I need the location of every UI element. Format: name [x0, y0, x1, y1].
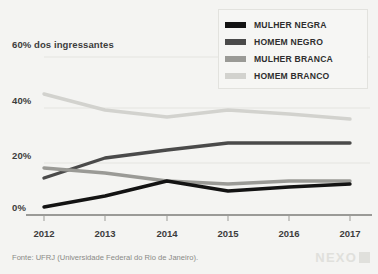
chart-container: 60% dos ingressantes 40% 20% 0% 2012 201…	[0, 0, 378, 274]
x-axis-label-2017: 2017	[339, 228, 360, 239]
legend-swatch-icon	[225, 39, 246, 45]
legend-label: MULHER BRANCA	[254, 54, 333, 64]
x-axis-ticks	[44, 215, 350, 221]
legend-swatch-icon	[225, 22, 246, 28]
y-axis-label-60: 60% dos ingressantes	[12, 39, 114, 50]
nexo-wordmark: NEXO	[315, 250, 357, 265]
y-axis-label-20: 20%	[12, 150, 31, 161]
series-line-mulher-negra	[44, 181, 350, 207]
legend-swatch-icon	[225, 56, 246, 62]
legend-swatch-icon	[225, 73, 246, 79]
series-line-homem-branco	[44, 94, 350, 119]
legend-label: HOMEM BRANCO	[254, 71, 329, 81]
legend-item-mulher-branca: MULHER BRANCA	[225, 50, 367, 67]
x-axis-label-2012: 2012	[33, 228, 54, 239]
y-axis-label-0: 0%	[12, 202, 26, 213]
legend-label: MULHER NEGRA	[254, 20, 327, 30]
x-axis-label-2013: 2013	[94, 228, 115, 239]
source-note: Fonte: UFRJ (Universidade Federal do Rio…	[12, 253, 198, 262]
chart-legend: MULHER NEGRA HOMEM NEGRO MULHER BRANCA H…	[218, 9, 368, 89]
legend-label: HOMEM NEGRO	[254, 37, 323, 47]
legend-item-homem-negro: HOMEM NEGRO	[225, 33, 367, 50]
legend-item-homem-branco: HOMEM BRANCO	[225, 67, 367, 84]
x-axis-label-2014: 2014	[156, 228, 177, 239]
legend-item-mulher-negra: MULHER NEGRA	[225, 16, 367, 33]
x-axis-label-2015: 2015	[217, 228, 238, 239]
series-line-mulher-branca	[44, 168, 350, 184]
nexo-logo: NEXO	[315, 250, 370, 265]
x-axis-label-2016: 2016	[278, 228, 299, 239]
y-axis-label-40: 40%	[12, 95, 31, 106]
nexo-square-icon	[359, 252, 370, 263]
